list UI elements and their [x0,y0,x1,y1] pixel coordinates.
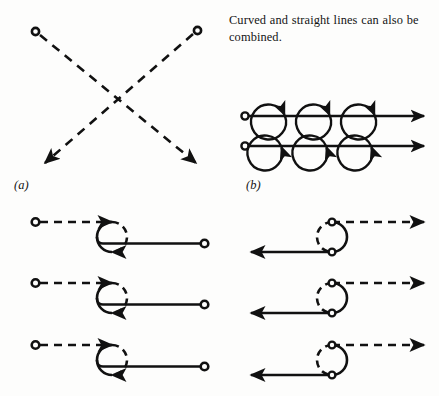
panel-c-solid-tail [97,360,201,367]
panel-c-loop-dashed-half [112,283,127,313]
ring-marker [32,218,40,226]
panel-c-row [32,279,209,313]
ring-marker [241,112,248,119]
panel-b-lower-loop [292,135,327,170]
panel-b-lower-loop [337,135,372,170]
panel-d-drawing [251,219,424,379]
panel-a-stroke-down-left [45,34,193,163]
ring-marker [329,249,336,256]
panel-c-loop-dashed-half [112,222,127,252]
panel-d-loop-dashed-half [317,345,332,375]
panel-c-row [32,218,209,252]
panel-d-loop-dashed-half [317,222,332,252]
ring-marker [32,28,39,35]
ring-marker [201,363,209,371]
ring-marker [329,280,336,287]
panel-c-loop-solid-half [97,222,112,252]
panel-d-row [251,219,424,256]
panel-c-solid-tail [97,298,201,305]
ring-marker [194,27,201,34]
ring-marker [201,240,209,248]
panel-c-loop-solid-half [97,283,112,313]
ring-marker [329,310,336,317]
figure-caption: Curved and straight lines can also be co… [229,12,434,45]
panel-d-loop-solid-half [332,283,347,313]
ring-marker [329,372,336,379]
panel-b-upper-loop [341,104,376,139]
ring-marker [32,341,40,349]
panel-d-loop-solid-half [332,345,347,375]
ring-marker [329,219,336,226]
panel-b-drawing [241,104,424,170]
panel-c-loop-dashed-half [112,345,127,375]
panel-c-row [32,341,209,375]
panel-d-row [251,342,424,379]
panel-label-b: (b) [246,178,261,193]
ring-marker [201,301,209,309]
panel-b-lower-loop [247,135,282,170]
panel-c-loop-solid-half [97,345,112,375]
ring-marker [329,342,336,349]
panel-a-drawing [32,27,201,163]
panel-label-a: (a) [14,178,29,193]
panel-d-loop-solid-half [332,222,347,252]
figure-drawing-canvas [0,0,439,396]
panel-d-loop-dashed-half [317,283,332,313]
panel-b-upper-loop [251,104,286,139]
panel-c-drawing [32,218,209,375]
panel-d-row [251,280,424,317]
panel-c-solid-tail [97,237,201,244]
figure-container: Curved and straight lines can also be co… [0,0,439,396]
panel-b-upper-loop [296,104,331,139]
ring-marker [32,279,40,287]
